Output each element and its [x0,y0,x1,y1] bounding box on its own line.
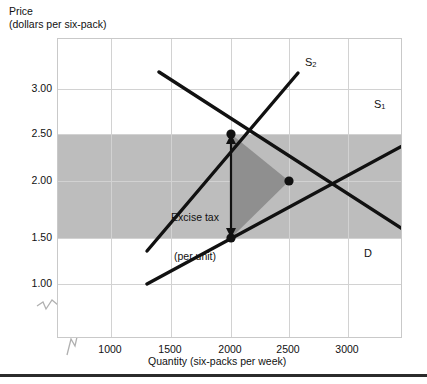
excise-tax-supply-demand-figure: Price (dollars per six-pack) 3.00 2.50 2… [0,0,427,384]
equilibrium-point-post-tax [226,129,235,138]
y-tick-label-2-00: 2.00 [10,174,52,186]
x-axis-title: Quantity (six-packs per week) [148,355,286,368]
curve-label-s1: S1 [374,98,386,111]
y-tick-label-2-50: 2.50 [10,127,52,139]
x-tick-label-2000: 2000 [205,343,255,355]
curve-label-d: D [364,247,372,259]
x-tick-label-1500: 1500 [145,343,195,355]
curve-label-s2: S2 [305,56,317,69]
equilibrium-point-pre-tax [284,176,293,185]
x-tick-label-3000: 3000 [322,343,372,355]
plot-area: S2 S1 D Excise tax (per unit) [57,38,402,338]
y-tick-label-1-00: 1.00 [10,277,52,289]
y-axis-title: Price (dollars per six-pack) [9,5,106,31]
y-tick-label-1-50: 1.50 [10,231,52,243]
curves-layer [58,39,402,338]
y-tick-label-3-00: 3.00 [10,82,52,94]
excise-tax-line-2: (per unit) [162,250,228,263]
bottom-divider-rule [0,374,427,377]
excise-tax-annotation: Excise tax (per unit) [162,185,228,289]
x-tick-label-1000: 1000 [85,343,135,355]
x-tick-label-2500: 2500 [263,343,313,355]
excise-tax-line-1: Excise tax [162,211,228,224]
